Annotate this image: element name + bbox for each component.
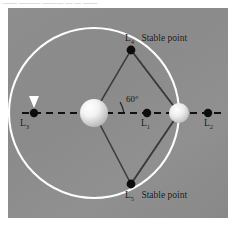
clipped-caption-text: —— ——— ——— — — —— xyxy=(3,0,233,7)
angle-label-60: 60° xyxy=(126,95,139,104)
label-l1: L1 xyxy=(141,118,150,132)
point-l3 xyxy=(30,109,38,117)
orbit-direction-arrow-icon xyxy=(29,96,39,108)
label-l4-note: Stable point xyxy=(141,33,187,43)
label-l5: L5 Stable point xyxy=(125,190,187,204)
secondary-body xyxy=(169,103,189,123)
lagrange-point-diagram: L3 L1 L2 L4 Stable point L5 Stable point… xyxy=(8,8,228,218)
point-l2 xyxy=(204,109,212,117)
primary-body xyxy=(80,99,108,127)
diagram-canvas xyxy=(8,8,228,218)
label-l4: L4 Stable point xyxy=(125,33,187,47)
point-l1 xyxy=(143,109,151,117)
point-l5 xyxy=(127,180,136,189)
label-l2: L2 xyxy=(204,118,213,132)
label-l3: L3 xyxy=(20,118,29,132)
label-l5-note: Stable point xyxy=(141,190,187,200)
angle-arc-60 xyxy=(120,102,124,113)
point-l4 xyxy=(127,46,136,55)
